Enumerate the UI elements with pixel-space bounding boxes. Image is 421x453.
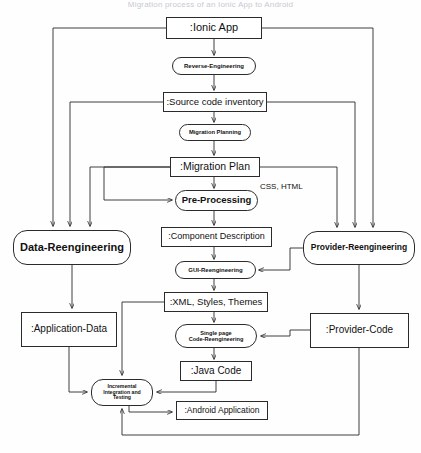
node-label: GUI-Reengineering [188,267,242,273]
node-pre-processing[interactable]: Pre-Processing [175,190,258,211]
node-provider-code[interactable]: :Provider-Code [310,313,409,348]
edge-application-data-to-incremental [69,347,87,392]
migration-process-diagram: Migration process of an Ionic App to And… [0,0,421,453]
node-java-code[interactable]: :Java Code [180,361,252,381]
node-label: Migration Planning [189,129,241,135]
node-ionic-app[interactable]: :Ionic App [166,17,262,39]
node-label: :Migration Plan [180,161,250,172]
node-incremental-testing[interactable]: Incremental Integration and Testing [91,379,153,406]
node-label: Data-Reengineering [20,242,124,254]
node-reverse-engineering[interactable]: Reverse-Engineering [172,57,256,75]
edge-inventory-to-provider-reengineering [267,102,355,227]
node-label: :Java Code [191,366,242,377]
edge-label-css-html: CSS, HTML [260,182,303,191]
node-migration-planning[interactable]: Migration Planning [179,124,251,141]
node-android-application[interactable]: :Android Application [176,401,268,420]
edge-java-code-to-incremental [157,381,216,392]
node-application-data[interactable]: :Application-Data [21,312,117,347]
node-label: :Ionic App [190,22,238,34]
node-data-reengineering[interactable]: Data-Reengineering [13,230,131,265]
node-label: Incremental Integration and Testing [103,384,140,401]
node-xml-styles-themes[interactable]: :XML, Styles, Themes [164,292,268,312]
node-label: :Application-Data [31,324,107,335]
node-label: :Component Description [168,232,265,242]
node-label: Provider-Reengineering [311,243,407,252]
node-label: Single page Code-Reengineering [189,330,244,342]
node-label: Pre-Processing [182,195,252,205]
diagram-title: Migration process of an Ionic App to And… [0,0,421,9]
edge-xml-to-incremental [122,302,164,375]
edge-inventory-to-data-reengineering [70,102,163,226]
edge-plan-to-provider-reengineering [260,167,337,227]
edge-migration-plan-to-preprocessing-feedback [104,167,172,200]
edge-plan-to-data-reengineering [90,167,170,226]
node-label: Reverse-Engineering [184,63,244,69]
node-single-page-code-reeng[interactable]: Single page Code-Reengineering [175,324,257,348]
node-component-description[interactable]: :Component Description [161,227,272,247]
edge-incremental-to-android-application [129,406,172,412]
edge-ionic-to-provider-reengineering [262,28,373,227]
node-source-code-inventory[interactable]: :Source code inventory [163,92,267,112]
node-label: :Android Application [184,406,259,415]
node-label: :Provider-Code [326,325,393,336]
node-provider-reengineering[interactable]: Provider-Reengineering [303,231,415,265]
edge-provider-reengineering-to-gui [259,248,303,270]
edge-provider-code-to-singlepage [261,330,310,336]
node-migration-plan[interactable]: :Migration Plan [170,157,260,177]
node-gui-reengineering[interactable]: GUI-Reengineering [175,261,256,279]
node-label: :XML, Styles, Themes [170,297,263,307]
node-label: :Source code inventory [166,97,263,107]
